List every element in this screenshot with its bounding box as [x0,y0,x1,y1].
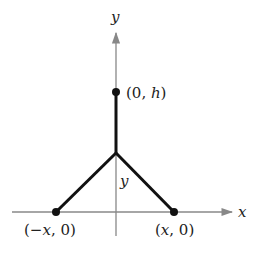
height-label: y [119,172,129,190]
point-top-label: (0, h) [126,84,166,102]
point-right-label: (x, 0) [155,221,194,239]
point-left-label: (−x, 0) [24,221,76,239]
point-right [170,208,178,216]
point-top [112,88,120,96]
x-axis-label: x [238,203,247,221]
coordinate-diagram: x y (0, h) (−x, 0) (x, 0) y [0,0,258,267]
left-segment [56,153,116,212]
point-left [52,208,60,216]
y-axis-label: y [110,8,120,26]
